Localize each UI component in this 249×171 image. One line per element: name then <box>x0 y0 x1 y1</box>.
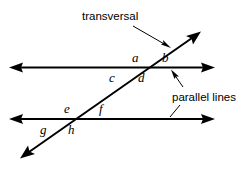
arrowhead-left-lower-icon <box>9 114 23 124</box>
angle-label-a: a <box>132 50 139 65</box>
angle-label-b: b <box>162 50 169 65</box>
angle-label-h: h <box>68 122 75 137</box>
angle-label-d: d <box>138 70 145 85</box>
arrowhead-right-lower-icon <box>201 114 215 124</box>
parallel-upper-leader-arrowhead-icon <box>171 70 179 80</box>
transversal-leader <box>133 26 171 48</box>
arrowhead-right-upper-icon <box>201 63 215 73</box>
angle-label-c: c <box>109 70 115 85</box>
parallel-lines-leader-upper <box>171 70 183 88</box>
angle-label-e: e <box>64 101 70 116</box>
parallel-lines-label: parallel lines <box>172 91 236 103</box>
angle-label-g: g <box>40 122 47 137</box>
geometry-diagram: transversal parallel lines a b c d e f g… <box>0 0 249 171</box>
arrowhead-left-upper-icon <box>9 63 23 73</box>
parallel-lines-leader-lower <box>170 105 180 117</box>
angle-label-f: f <box>99 101 105 116</box>
transversal-leader-arrowhead-icon <box>161 40 171 48</box>
arrowhead-upper-transversal-icon <box>186 32 201 45</box>
transversal-label: transversal <box>82 10 138 22</box>
arrowhead-lower-transversal-icon <box>20 146 35 159</box>
diagram-canvas: transversal parallel lines a b c d e f g… <box>0 0 249 171</box>
